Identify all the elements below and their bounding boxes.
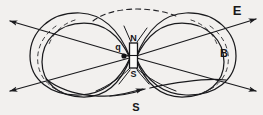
field-line-diagram: E B S N S q [0,0,263,115]
s-line-label: S [132,101,139,113]
physics-figure: E B S N S q [0,0,263,115]
left-outer-field-loop [30,13,130,95]
bottom-field-line-continued [110,89,143,96]
south-pole-label: S [130,69,136,79]
vector-line-down-right [133,57,256,91]
b-field-label: B [220,47,228,59]
north-pole-label: N [130,33,137,43]
charge-label: q [115,42,121,52]
bottom-field-line-right [150,79,226,88]
e-field-label: E [233,3,242,18]
vector-line-down-left [10,57,133,91]
radial-tick-up-right [137,28,147,42]
charge-dot [121,53,126,58]
